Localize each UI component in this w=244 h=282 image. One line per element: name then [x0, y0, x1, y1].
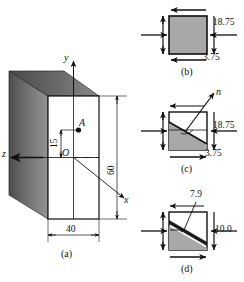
panel-b-drawing	[140, 2, 244, 74]
block-left-face	[9, 71, 48, 219]
panel-c-caption: (c)	[181, 163, 192, 174]
point-a-label: A	[79, 117, 85, 128]
panel-b-caption: (b)	[181, 66, 193, 77]
dim-40-label: 40	[66, 224, 76, 234]
panel-c-shear-stress-label: 3.75	[205, 148, 222, 158]
axis-x-label: x	[124, 194, 128, 205]
axis-z-label: z	[2, 148, 6, 159]
dim-15-label: 15	[49, 139, 59, 149]
panel-a-caption: (a)	[61, 248, 72, 259]
dim-60-label: 60	[106, 166, 116, 176]
panel-b-shear-stress-label: 3.75	[203, 52, 220, 62]
panel-a-drawing	[0, 52, 144, 267]
origin-label: O	[62, 147, 69, 158]
panel-c-normal-label: n	[216, 86, 221, 97]
panel-c-normal-stress-label: 18.75	[213, 120, 234, 130]
panel-d-normal-stress-label: 10.0	[215, 224, 232, 234]
panel-b-normal-stress-label: 18.75	[213, 17, 234, 27]
axis-y-label: y	[64, 52, 68, 63]
figure-root: y z x A O 15 60 40 (a) 18.75 3.75 (b)	[0, 0, 244, 282]
panel-d-caption: (d)	[181, 263, 193, 274]
panel-b-square	[169, 16, 207, 54]
panel-d-shear-stress-label: 7.9	[190, 189, 202, 199]
